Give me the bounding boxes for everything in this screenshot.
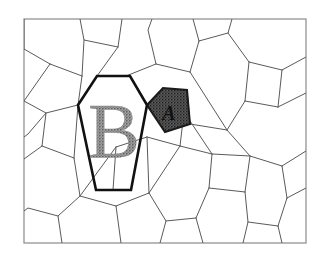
tiling-canvas: B A xyxy=(0,0,328,260)
pentagonal-tiling-figure: B A xyxy=(0,0,328,260)
